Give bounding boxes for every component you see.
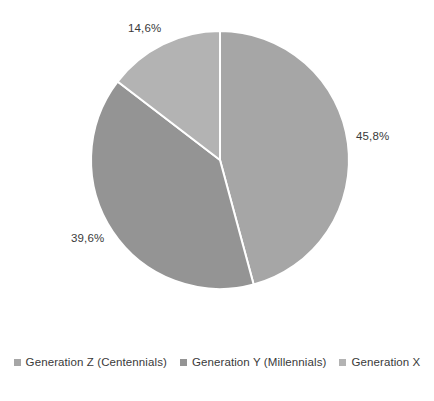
pie-data-label-generation-x: 14,6% <box>128 22 161 34</box>
pie-plot-area: 14,6% 45,8% 39,6% <box>0 0 434 320</box>
legend-swatch-icon <box>339 359 346 366</box>
legend-item[interactable]: Generation Y (Millennials) <box>180 356 327 368</box>
legend-item[interactable]: Generation X <box>339 356 420 368</box>
pie-chart-figure: 14,6% 45,8% 39,6% Generation Z (Centenni… <box>0 0 434 401</box>
pie-data-label-generation-z: 45,8% <box>356 130 389 142</box>
legend-item-label: Generation Y (Millennials) <box>192 356 327 368</box>
pie-data-label-generation-y: 39,6% <box>71 232 104 244</box>
pie-svg <box>0 0 434 320</box>
chart-legend: Generation Z (Centennials)Generation Y (… <box>0 356 434 368</box>
legend-item-label: Generation X <box>351 356 420 368</box>
pie-slice-group <box>91 31 349 289</box>
legend-item-label: Generation Z (Centennials) <box>26 356 167 368</box>
legend-swatch-icon <box>180 359 187 366</box>
legend-swatch-icon <box>14 359 21 366</box>
legend-item[interactable]: Generation Z (Centennials) <box>14 356 167 368</box>
